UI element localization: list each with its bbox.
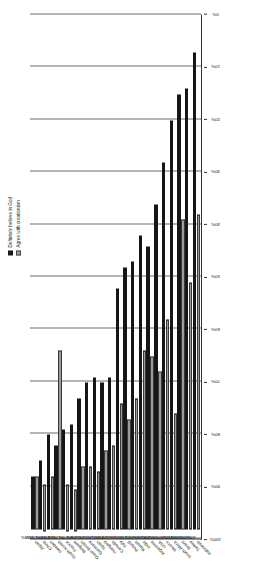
bar-group: 56%34% — [139, 14, 147, 538]
x-axis-tick-mark — [204, 66, 207, 67]
bar-believe — [39, 461, 42, 529]
bar-believe — [85, 382, 88, 529]
bar-group: 83%59% — [177, 14, 185, 538]
x-axis-tick: 60% — [204, 325, 218, 334]
x-axis-tick-label: 100% — [210, 537, 221, 542]
legend-swatch-icon — [16, 250, 21, 255]
x-axis-tick-mark — [204, 171, 207, 172]
bar-row: 18% — [47, 14, 50, 538]
bar-believe — [146, 246, 149, 529]
x-axis-tick-mark — [204, 486, 207, 487]
bar-row: 56% — [139, 14, 142, 538]
bar-row: 51% — [131, 14, 134, 538]
x-axis-tick-mark — [204, 276, 207, 277]
x-axis-tick: 100% — [204, 533, 218, 544]
x-axis-tick: 90% — [204, 482, 218, 491]
bar-row: 78% — [170, 14, 173, 538]
x-axis-tick-mark — [204, 119, 207, 120]
x-axis-tick-label: 70% — [211, 379, 220, 384]
bar-believe — [162, 162, 165, 529]
bar-believe — [100, 382, 103, 529]
bar-group: 13%9% — [39, 14, 47, 538]
bar-group: 10%10% — [31, 14, 39, 538]
bar-row: 25% — [77, 14, 80, 538]
bar-group: 19%9% — [62, 14, 70, 538]
legend-label: Definitely believe in God — [8, 196, 13, 247]
bar-row: 19% — [62, 14, 65, 538]
x-axis-tick-label: 90% — [211, 484, 220, 489]
x-axis-tick-label: 30% — [211, 169, 220, 174]
bar-row: 91% — [193, 14, 196, 538]
bar-row: 62% — [154, 14, 157, 538]
x-axis-tick-mark — [204, 539, 207, 540]
bar-row: 29% — [108, 14, 111, 538]
bar-believe — [193, 52, 196, 529]
bar-group: 29%16% — [108, 14, 116, 538]
x-axis-tick-label: 60% — [211, 327, 220, 332]
legend-label: Agree with creationism — [16, 200, 21, 247]
bar-group: 91%60% — [192, 14, 200, 538]
bar-row: 83% — [177, 14, 180, 538]
bar-creation — [197, 214, 200, 528]
bar-row: 70% — [162, 14, 165, 538]
bar-believe — [170, 120, 173, 529]
bar-group: 54%33% — [146, 14, 154, 538]
bar-believe — [123, 267, 126, 529]
bar-group: 25%12% — [77, 14, 85, 538]
bar-group: 46%24% — [116, 14, 124, 538]
x-axis-tick-mark — [204, 224, 207, 225]
bar-row: 84% — [185, 14, 188, 538]
bar-group: 28%12% — [85, 14, 93, 538]
bar-believe — [139, 235, 142, 528]
x-axis-tick: 50% — [204, 272, 218, 281]
x-axis-tick: 10% — [204, 62, 218, 71]
bar-believe — [31, 476, 34, 528]
bar-group: 62%30% — [154, 14, 162, 538]
x-axis-tick-label: 80% — [211, 432, 220, 437]
bar-row: 50% — [123, 14, 126, 538]
x-axis-tick: 40% — [204, 220, 218, 229]
bar-believe — [154, 204, 157, 529]
bar-believe — [93, 377, 96, 529]
x-axis-tick-label: 0% — [212, 12, 218, 17]
bar-believe — [54, 445, 57, 529]
legend-entry: Definitely believe in God — [8, 196, 13, 255]
bar-group: 18%10% — [46, 14, 54, 538]
plot-area: 10%10%13%9%18%10%16%34%19%9%20%8%25%12%2… — [30, 14, 202, 539]
x-axis-tick-mark — [204, 434, 207, 435]
bar-row: 20% — [70, 14, 73, 538]
bar-believe — [108, 377, 111, 529]
bar-group: 70%40% — [162, 14, 170, 538]
value-axis: 100%90%80%70%60%50%40%30%20%10%0% — [204, 14, 224, 539]
bar-group: 50%21% — [123, 14, 131, 538]
legend-swatch-icon — [8, 250, 13, 255]
x-axis-tick-label: 50% — [211, 274, 220, 279]
x-axis-tick-mark — [204, 329, 207, 330]
bar-believe — [116, 288, 119, 529]
bar-believe — [131, 261, 134, 528]
bar-row: 29% — [93, 14, 96, 538]
bar-row: 16% — [54, 14, 57, 538]
bar-group: 29%11% — [93, 14, 101, 538]
x-axis-tick-label: 20% — [211, 117, 220, 122]
x-axis-tick-label: 10% — [211, 64, 220, 69]
x-axis-tick: 20% — [204, 115, 218, 124]
bar-believe — [70, 424, 73, 529]
bar-row: 13% — [39, 14, 42, 538]
bar-group: 20%8% — [69, 14, 77, 538]
bar-group: 51%25% — [131, 14, 139, 538]
bar-groups: 10%10%13%9%18%10%16%34%19%9%20%8%25%12%2… — [30, 14, 201, 538]
bar-believe — [185, 88, 188, 528]
bar-row: 28% — [85, 14, 88, 538]
x-axis-tick: 30% — [204, 167, 218, 176]
bar-group: 28%15% — [100, 14, 108, 538]
bar-row: 54% — [146, 14, 149, 538]
bar-group: 84%47% — [185, 14, 193, 538]
legend-entry: Agree with creationism — [16, 196, 21, 255]
x-axis-tick: 70% — [204, 377, 218, 386]
x-axis-tick-label: 40% — [211, 222, 220, 227]
bar-group: 78%22% — [169, 14, 177, 538]
bar-believe — [47, 434, 50, 528]
x-axis-tick-mark — [204, 381, 207, 382]
bar-believe — [177, 94, 180, 529]
